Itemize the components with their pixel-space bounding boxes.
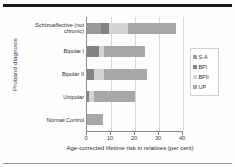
category-label-5: Normal Control (14, 117, 84, 123)
bottom-rule (3, 163, 232, 164)
legend-label: BPII (199, 74, 209, 80)
legend-swatch-icon (193, 65, 197, 69)
bar-segment-bpi (87, 69, 94, 80)
legend-label: UP (199, 84, 207, 90)
legend: S-ABPIBPIIUP (190, 48, 219, 96)
x-tick-label: 40 (174, 135, 190, 141)
bar-segment-up (128, 23, 176, 34)
bar-2 (87, 46, 145, 57)
x-tick-label: 10 (102, 135, 118, 141)
bar-1 (87, 23, 176, 34)
plot-area (86, 17, 183, 132)
legend-item-bpi[interactable]: BPI (193, 62, 216, 72)
legend-item-s-a[interactable]: S-A (193, 52, 216, 62)
bar-segment-bpii (94, 69, 104, 80)
legend-item-bpii[interactable]: BPII (193, 72, 216, 82)
legend-label: S-A (199, 54, 208, 60)
gridline (183, 17, 184, 131)
x-tick-label: 30 (150, 135, 166, 141)
category-label-4: Unipolar (14, 94, 84, 100)
x-tick-label: 20 (126, 135, 142, 141)
top-rule (3, 4, 232, 7)
bar-3 (87, 69, 147, 80)
legend-swatch-icon (193, 85, 197, 89)
bar-segment-bpi (87, 46, 99, 57)
legend-item-up[interactable]: UP (193, 82, 216, 92)
bar-segment-up (94, 91, 135, 102)
x-tick-label: 0 (78, 135, 94, 141)
bar-4 (87, 91, 135, 102)
gridline (159, 17, 160, 131)
category-labels: Schizoaffective (not chronic)Bipolar IBi… (14, 17, 84, 131)
stacked-bar-chart: Proband diagnosis Schizoaffective (not c… (0, 9, 235, 161)
bar-segment-up (87, 114, 103, 125)
figure-panel: Proband diagnosis Schizoaffective (not c… (0, 0, 235, 167)
category-label-1: Schizoaffective (not chronic) (14, 22, 84, 35)
legend-swatch-icon (193, 75, 197, 79)
bar-segment-s-a (87, 23, 101, 34)
category-label-3: Bipolar II (14, 71, 84, 77)
bar-segment-up (104, 69, 147, 80)
legend-swatch-icon (193, 55, 197, 59)
category-label-2: Bipolar I (14, 48, 84, 54)
legend-label: BPI (199, 64, 208, 70)
bar-segment-up (104, 46, 145, 57)
bar-5 (87, 114, 103, 125)
bar-segment-bpi (101, 23, 108, 34)
x-axis: 010203040 (86, 132, 182, 146)
x-axis-title: Age-corrected lifetime risk in relatives… (40, 145, 220, 151)
bar-segment-bpii (109, 23, 128, 34)
